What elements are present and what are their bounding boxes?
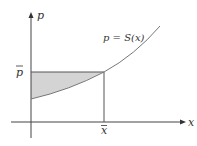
quantity-label: x bbox=[101, 124, 108, 137]
price-label: p bbox=[16, 66, 23, 79]
producer-surplus-diagram: p x p = S(x) p x bbox=[0, 0, 197, 146]
y-axis-arrow-icon bbox=[29, 12, 34, 18]
y-axis-label: p bbox=[37, 9, 44, 22]
x-axis-arrow-icon bbox=[180, 120, 186, 125]
curve-label: p = S(x) bbox=[103, 32, 145, 43]
x-axis-label: x bbox=[188, 116, 195, 129]
producer-surplus-region bbox=[31, 72, 103, 99]
